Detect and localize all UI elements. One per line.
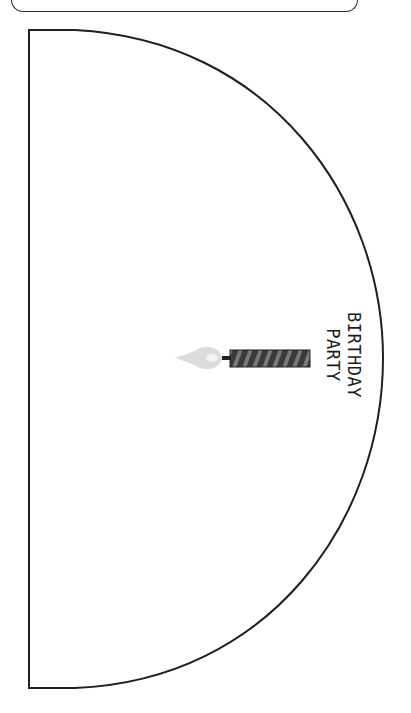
- candle-wick: [222, 356, 231, 360]
- flame-inner: [206, 354, 218, 362]
- label-line-2: PARTY: [322, 312, 343, 398]
- label-line-1: BIRTHDAY: [343, 312, 364, 398]
- birthday-party-label: BIRTHDAY PARTY: [322, 312, 364, 398]
- candle-body: [230, 350, 310, 367]
